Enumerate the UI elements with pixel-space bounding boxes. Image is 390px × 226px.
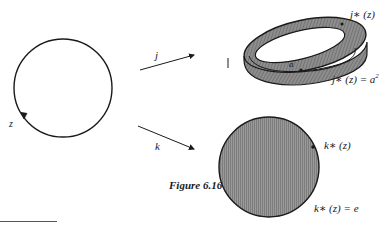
generator-a-point-icon <box>299 68 302 71</box>
k-path-label: k∗ (z) <box>324 140 351 151</box>
map-k-arrow <box>138 126 194 149</box>
k-equation-label: k∗ (z) = e <box>314 203 359 214</box>
map-j-label: j <box>155 50 158 61</box>
generator-a-label: a <box>289 60 294 69</box>
diagram-canvas <box>0 0 390 226</box>
j-equation-lhs: j∗ (z) = a <box>332 73 375 85</box>
map-k-label: k <box>155 141 160 152</box>
figure-caption: Figure 6.16 <box>169 179 222 191</box>
filled-disk <box>219 117 319 217</box>
footnote-rule <box>0 221 57 222</box>
j-equation-exponent: 2 <box>375 72 379 80</box>
source-circle <box>14 39 112 137</box>
map-j-arrow <box>140 55 194 70</box>
j-path-label: j∗ (z) <box>350 9 375 20</box>
path-z-label: z <box>9 119 13 129</box>
k-path-point-icon <box>311 145 315 149</box>
j-path-point-icon <box>340 22 343 25</box>
figure-6-16: j k z j∗ (z) a j∗ (z) = a2 k∗ (z) k∗ (z)… <box>0 0 390 226</box>
j-equation-label: j∗ (z) = a2 <box>332 73 379 85</box>
